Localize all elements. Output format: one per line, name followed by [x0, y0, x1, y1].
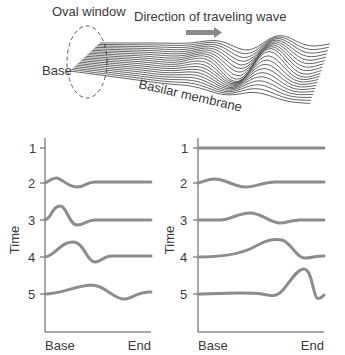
left-curve-t4: [45, 242, 151, 262]
left-curve-t5: [45, 285, 151, 299]
left-x-start-label: Base: [45, 338, 75, 353]
left-tick-2: 2: [28, 176, 35, 191]
direction-label: Direction of traveling wave: [134, 9, 286, 24]
right-tick-5: 5: [180, 287, 187, 302]
basilar-membrane-figure: Oval window Direction of traveling wave …: [42, 4, 330, 115]
right-curve-t3: [198, 213, 324, 223]
right-curve-t4: [198, 239, 324, 258]
left-curve-t2: [45, 178, 151, 187]
base-label: Base: [42, 63, 72, 78]
right-x-end-label: End: [301, 338, 324, 353]
diagram-canvas: Oval window Direction of traveling wave …: [0, 0, 345, 355]
left-curve-t3: [45, 206, 151, 225]
direction-arrow-icon: [186, 27, 222, 38]
right-curve-t2: [198, 179, 324, 187]
left-tick-3: 3: [28, 213, 35, 228]
oval-window-label: Oval window: [52, 4, 126, 19]
left-tick-5: 5: [28, 287, 35, 302]
right-chart: 1 2 3 4 5 Time Base End: [162, 138, 324, 353]
right-tick-2: 2: [180, 176, 187, 191]
right-tick-4: 4: [180, 250, 187, 265]
left-x-end-label: End: [128, 338, 151, 353]
left-tick-4: 4: [28, 250, 35, 265]
left-y-label: Time: [7, 226, 22, 254]
right-x-start-label: Base: [198, 338, 228, 353]
oval-window-ellipse: [67, 26, 107, 98]
right-y-label: Time: [162, 226, 177, 254]
right-curve-t5: [198, 269, 324, 299]
left-chart: 1 2 3 4 5 Time Base End: [7, 138, 151, 353]
left-tick-1: 1: [29, 141, 36, 156]
right-tick-1: 1: [181, 141, 188, 156]
right-tick-3: 3: [180, 213, 187, 228]
